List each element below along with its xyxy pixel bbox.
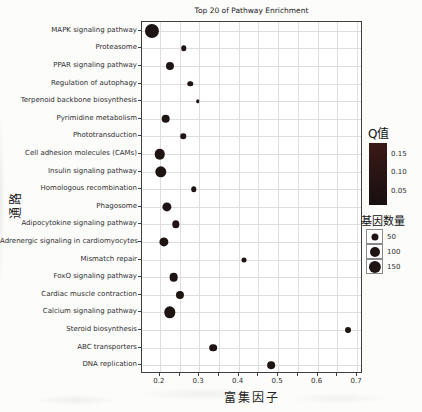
gene-count-key-label: 50 (387, 233, 396, 241)
y-tick (138, 100, 141, 101)
category-label: PPAR signaling pathway (0, 61, 137, 69)
y-tick (138, 206, 141, 207)
gridline-vertical (357, 22, 358, 372)
gridline-horizontal (142, 154, 361, 155)
y-tick (138, 65, 141, 66)
x-tick (179, 373, 180, 376)
y-tick (138, 153, 141, 154)
x-tick-label: 0.2 (153, 377, 164, 385)
y-tick (138, 329, 141, 330)
gridline-vertical (199, 22, 200, 372)
x-tick (238, 373, 239, 376)
gridline-vertical (258, 22, 259, 372)
gene-count-key-dot (371, 233, 378, 240)
data-point-mismatch-repair (241, 257, 246, 262)
y-tick (138, 188, 141, 189)
x-tick (198, 373, 199, 376)
qvalue-legend-title: Q值 (368, 124, 389, 141)
category-label: Adrenergic signaling in cardiomyocytes (0, 237, 137, 245)
y-tick (138, 311, 141, 312)
gridline-horizontal (142, 66, 361, 67)
gridline-horizontal (142, 136, 361, 137)
data-point-calcium-signaling-pathway (164, 307, 175, 318)
data-point-pyrimidine-metabolism (161, 114, 170, 123)
category-label: Terpenoid backbone biosynthesis (0, 96, 137, 104)
y-tick (138, 47, 141, 48)
y-tick (138, 347, 141, 348)
gridline-horizontal (142, 101, 361, 102)
gene-count-key-label: 100 (387, 248, 400, 256)
category-label: Homologous recombination (0, 184, 137, 192)
y-tick (138, 259, 141, 260)
x-tick (218, 373, 219, 376)
category-label: DNA replication (0, 360, 137, 368)
category-label: Phagosome (0, 202, 137, 210)
qvalue-tick-label: 0.15 (391, 150, 407, 158)
gene-count-key-100 (366, 244, 383, 259)
data-point-cardiac-muscle-contraction (175, 291, 183, 299)
data-point-regulation-of-autophagy (187, 81, 193, 87)
x-tick-label: 0.5 (272, 377, 283, 385)
gridline-vertical (298, 22, 299, 372)
data-point-adipocytokine-signaling-pathway (172, 221, 179, 228)
x-axis-title: 富集因子 (141, 388, 362, 405)
y-tick (138, 30, 141, 31)
data-point-foxo-signaling-pathway (169, 273, 178, 282)
gridline-vertical (337, 22, 338, 372)
gridline-vertical (239, 22, 240, 372)
gridline-horizontal (142, 84, 361, 85)
data-point-insulin-signaling-pathway (155, 166, 166, 177)
category-label: Proteasome (0, 43, 137, 51)
gridline-vertical (160, 22, 161, 372)
gridline-horizontal (142, 365, 361, 366)
gene-count-key-label: 150 (387, 263, 400, 271)
pathway-enrichment-figure: Top 20 of Pathway Enrichment 通路 MAPK sig… (0, 0, 422, 412)
data-point-homologous-recombination (191, 186, 197, 192)
category-label: Phototransduction (0, 131, 137, 139)
gridline-vertical (318, 22, 319, 372)
gridline-horizontal (142, 242, 361, 243)
data-point-adrenergic-signaling-in-cardiomyocytes (160, 237, 169, 246)
gridline-vertical (180, 22, 181, 372)
data-point-steroid-biosynthesis (345, 327, 351, 333)
gridline-horizontal (142, 119, 361, 120)
x-tick-label: 0.4 (232, 377, 243, 385)
category-label: FoxO signaling pathway (0, 272, 137, 280)
qvalue-colorbar (369, 143, 387, 205)
data-point-abc-transporters (210, 344, 218, 352)
gene-count-key-50 (366, 229, 383, 244)
x-tick-label: 0.3 (193, 377, 204, 385)
x-tick-label: 0.6 (311, 377, 322, 385)
data-point-terpenoid-backbone-biosynthesis (196, 99, 200, 103)
data-point-phagosome (163, 202, 172, 211)
gridline-horizontal (142, 189, 361, 190)
data-point-phototransduction (181, 134, 187, 140)
category-label: Insulin signaling pathway (0, 167, 137, 175)
y-tick (138, 276, 141, 277)
data-point-ppar-signaling-pathway (166, 62, 174, 70)
y-tick (138, 294, 141, 295)
data-point-dna-replication (267, 361, 275, 369)
chart-title: Top 20 of Pathway Enrichment (141, 6, 362, 15)
category-label: ABC transporters (0, 343, 137, 351)
gridline-horizontal (142, 260, 361, 261)
data-point-mapk-signaling-pathway (145, 24, 159, 38)
gene-count-key-dot (370, 247, 380, 257)
x-tick-label: 0.7 (351, 377, 362, 385)
gene-count-key-dot (368, 260, 380, 272)
y-tick (138, 135, 141, 136)
gridline-horizontal (142, 172, 361, 173)
category-label: Cardiac muscle contraction (0, 290, 137, 298)
category-label: Mismatch repair (0, 255, 137, 263)
y-tick (138, 83, 141, 84)
gene-count-key-150 (366, 259, 383, 274)
x-tick (297, 373, 298, 376)
gridline-horizontal (142, 31, 361, 32)
plot-area (141, 21, 362, 373)
x-tick (356, 373, 357, 376)
y-axis-labels: MAPK signaling pathwayProteasomePPAR sig… (0, 21, 137, 373)
qvalue-tick-label: 0.10 (391, 168, 407, 176)
category-label: Calcium signaling pathway (0, 307, 137, 315)
x-tick (277, 373, 278, 376)
gridline-horizontal (142, 348, 361, 349)
